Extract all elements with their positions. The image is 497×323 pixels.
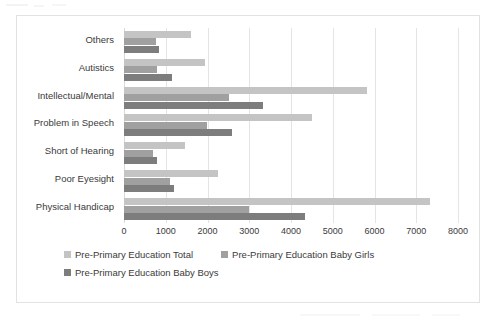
bar-total[interactable] xyxy=(124,59,205,66)
bar-total[interactable] xyxy=(124,198,430,205)
chart-plot-wrapper: Others Autistics Intellectual/Mental Pro… xyxy=(17,16,481,304)
scan-artifact xyxy=(372,314,420,316)
value-axis-tick-label: 2000 xyxy=(197,226,217,236)
category-label: Problem in Speech xyxy=(34,117,114,128)
plot-area xyxy=(124,28,458,223)
bar-total[interactable] xyxy=(124,142,185,149)
legend-item-baby-girls[interactable]: Pre-Primary Education Baby Girls xyxy=(221,249,374,260)
bar-boys[interactable] xyxy=(124,46,159,53)
legend-swatch-baby-girls xyxy=(221,251,228,258)
chart-legend: Pre-Primary Education Total Pre-Primary … xyxy=(17,249,481,285)
category-label: Intellectual/Mental xyxy=(37,90,114,101)
bar-total[interactable] xyxy=(124,170,218,177)
bar-girls[interactable] xyxy=(124,94,229,101)
legend-label-total: Pre-Primary Education Total xyxy=(75,249,193,260)
legend-swatch-total xyxy=(64,251,71,258)
chart-container: Others Autistics Intellectual/Mental Pro… xyxy=(16,15,480,303)
value-axis-tick-label: 4000 xyxy=(281,226,301,236)
scan-artifact xyxy=(34,5,44,7)
category-label: Short of Hearing xyxy=(45,145,114,156)
bar-boys[interactable] xyxy=(124,102,263,109)
legend-item-baby-boys[interactable]: Pre-Primary Education Baby Boys xyxy=(64,267,219,278)
category-label: Physical Handicap xyxy=(36,201,114,212)
bar-total[interactable] xyxy=(124,87,367,94)
scan-artifact xyxy=(6,4,28,6)
legend-swatch-baby-boys xyxy=(64,269,71,276)
bar-group xyxy=(124,195,458,223)
value-axis-tick-label: 0 xyxy=(121,226,126,236)
bar-total[interactable] xyxy=(124,31,191,38)
bar-boys[interactable] xyxy=(124,74,172,81)
value-axis-tick-label: 8000 xyxy=(448,226,468,236)
bar-girls[interactable] xyxy=(124,66,157,73)
bar-total[interactable] xyxy=(124,114,312,121)
bar-boys[interactable] xyxy=(124,185,174,192)
bar-girls[interactable] xyxy=(124,178,170,185)
gridline xyxy=(458,28,459,223)
bar-group xyxy=(124,167,458,195)
value-axis-tick-label: 5000 xyxy=(323,226,343,236)
bar-group xyxy=(124,56,458,84)
category-label: Poor Eyesight xyxy=(55,173,114,184)
category-axis: Others Autistics Intellectual/Mental Pro… xyxy=(17,28,120,223)
bar-boys[interactable] xyxy=(124,213,305,220)
bar-group xyxy=(124,139,458,167)
bar-girls[interactable] xyxy=(124,150,153,157)
scan-artifact xyxy=(52,4,66,6)
bar-boys[interactable] xyxy=(124,157,157,164)
value-axis-tick-label: 1000 xyxy=(156,226,176,236)
scan-artifact xyxy=(432,314,460,316)
bar-girls[interactable] xyxy=(124,122,207,129)
bar-girls[interactable] xyxy=(124,206,249,213)
legend-label-baby-boys: Pre-Primary Education Baby Boys xyxy=(75,267,219,278)
bar-girls[interactable] xyxy=(124,38,156,45)
value-axis: 010002000300040005000600070008000 xyxy=(124,226,458,240)
bar-group xyxy=(124,28,458,56)
value-axis-tick-label: 6000 xyxy=(364,226,384,236)
legend-item-total[interactable]: Pre-Primary Education Total xyxy=(64,249,193,260)
bar-group xyxy=(124,112,458,140)
value-axis-tick-label: 7000 xyxy=(406,226,426,236)
category-label: Others xyxy=(85,34,114,45)
category-label: Autistics xyxy=(79,62,114,73)
scan-artifact xyxy=(300,314,360,316)
legend-label-baby-girls: Pre-Primary Education Baby Girls xyxy=(232,249,374,260)
bar-group xyxy=(124,84,458,112)
bar-boys[interactable] xyxy=(124,129,232,136)
value-axis-tick-label: 3000 xyxy=(239,226,259,236)
